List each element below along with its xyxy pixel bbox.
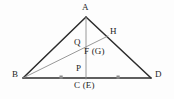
segment-BH: [23, 36, 108, 78]
point-label-Q: Q: [74, 38, 81, 47]
point-label-H: H: [110, 27, 117, 36]
point-label-CE: C (E): [74, 81, 95, 90]
tick-right: [117, 76, 120, 79]
geometry-figure: A H Q F (G) P B D C (E): [0, 0, 174, 99]
point-label-P: P: [76, 64, 81, 73]
point-label-FG: F (G): [84, 47, 105, 56]
tick-left: [60, 76, 63, 79]
point-label-D: D: [155, 70, 162, 79]
point-label-A: A: [82, 3, 89, 12]
point-label-B: B: [12, 70, 18, 79]
